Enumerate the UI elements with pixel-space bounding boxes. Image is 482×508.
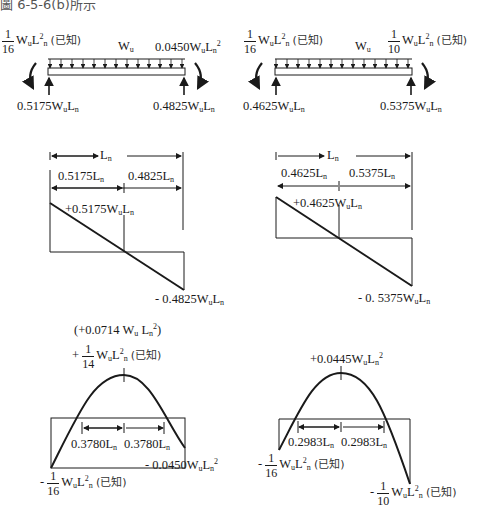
- right-beam-left-reaction: 0.4625WuLn: [243, 100, 305, 114]
- left-shear-right-segment: 0.4825Ln: [128, 170, 174, 184]
- right-beam: [256, 59, 428, 95]
- left-moment-left-end-value: - 116WuL2n (已知): [40, 470, 126, 497]
- right-shear-span-label: Ln: [327, 149, 339, 163]
- left-moment-diagram: [51, 368, 185, 468]
- left-shear-positive-label: +0.5175WuLn: [65, 203, 134, 217]
- right-moment-right-end-value: - 110WuL2n (已知): [370, 480, 456, 507]
- left-moment-inflection-left: 0.3780Ln: [71, 438, 117, 452]
- right-beam-load-label: Wu: [355, 40, 371, 54]
- left-moment-right-end-value: - 0.0450WuLn2: [145, 458, 218, 473]
- right-shear-positive-label: +0.4625WuLn: [293, 197, 362, 211]
- right-shear-negative-label: - 0. 5375WuLn: [358, 292, 430, 306]
- left-beam: [30, 59, 201, 95]
- left-beam-right-reaction: 0.4825WuLn: [153, 100, 215, 114]
- right-moment-inflection-right: 0.2983Ln: [341, 436, 387, 450]
- left-shear-span-label: Ln: [100, 149, 112, 163]
- left-beam-load-label: Wu: [118, 40, 134, 54]
- right-beam-right-reaction: 0.5375WuLn: [380, 100, 442, 114]
- right-shear-right-segment: 0.5375Ln: [349, 167, 395, 181]
- left-moment-inflection-right: 0.3780Ln: [124, 438, 170, 452]
- right-moment-max-value: +0.0445WuLn2: [310, 352, 383, 367]
- right-shear-left-segment: 0.4625Ln: [281, 167, 327, 181]
- left-beam-left-moment-label: 116WuL2n (已知): [2, 28, 81, 55]
- right-moment-left-end-value: - 116WuL2n (已知): [258, 452, 344, 479]
- right-beam-right-moment-label: 110WuL2n (已知): [388, 28, 467, 55]
- left-beam-right-moment-label: 0.0450WuLn2: [155, 40, 221, 55]
- right-moment-inflection-left: 0.2983Ln: [288, 436, 334, 450]
- left-beam-left-reaction: 0.5175WuLn: [17, 100, 79, 114]
- left-shear-negative-label: - 0.4825WuLn: [155, 293, 224, 307]
- left-moment-max-fraction: + 114WuL2n (已知): [72, 343, 161, 370]
- right-beam-left-moment-label: 116WuL2n (已知): [244, 28, 323, 55]
- left-moment-max-value: (+0.0714 Wu Ln2): [74, 323, 161, 338]
- left-shear-left-segment: 0.5175Ln: [58, 170, 104, 184]
